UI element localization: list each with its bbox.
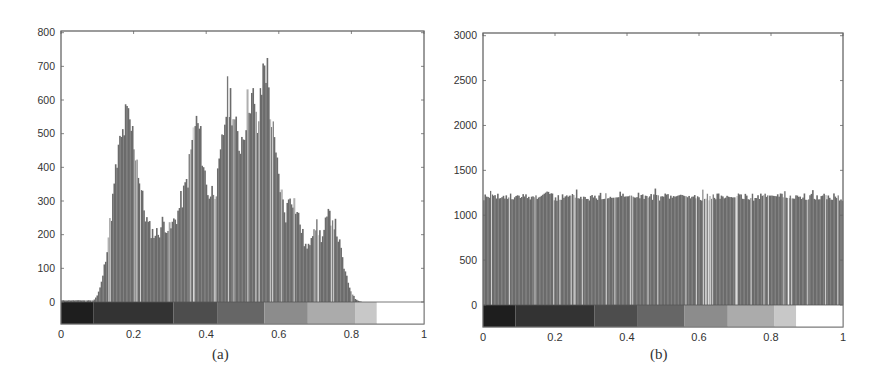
x-tick-label: 0.2	[126, 328, 141, 340]
y-tick-label: 1500	[454, 164, 478, 176]
y-tick-label: 2000	[454, 119, 478, 131]
y-tick-label: 0	[49, 296, 55, 308]
y-tick-label: 200	[37, 228, 55, 240]
y-tick-label: 3000	[454, 29, 478, 41]
grayscale-colorbar	[61, 302, 424, 324]
caption-a: (a)	[212, 346, 229, 363]
caption-b: (b)	[650, 346, 668, 363]
y-tick-label: 800	[37, 26, 55, 38]
y-tick-label: 2500	[454, 74, 478, 86]
x-tick-label: 0.6	[271, 328, 286, 340]
histogram-chart-b: 05001000150020002500300000.20.40.60.81	[440, 0, 877, 379]
histogram-panel-a: 010020030040050060070080000.20.40.60.81 …	[0, 0, 440, 379]
grayscale-colorbar	[483, 305, 843, 327]
x-tick-label: 0.4	[619, 331, 634, 343]
histogram-panel-b: 05001000150020002500300000.20.40.60.81 (…	[440, 0, 877, 379]
x-tick-label: 0.4	[199, 328, 214, 340]
x-tick-label: 0.6	[691, 331, 706, 343]
x-tick-label: 1	[840, 331, 846, 343]
x-tick-label: 0.8	[763, 331, 778, 343]
y-tick-label: 0	[471, 299, 477, 311]
y-tick-label: 600	[37, 94, 55, 106]
y-tick-label: 100	[37, 262, 55, 274]
y-tick-label: 1000	[454, 209, 478, 221]
x-tick-label: 1	[421, 328, 427, 340]
x-tick-label: 0	[480, 331, 486, 343]
y-tick-label: 400	[37, 161, 55, 173]
histogram-chart-a: 010020030040050060070080000.20.40.60.81	[0, 0, 440, 379]
x-tick-label: 0.2	[547, 331, 562, 343]
histogram-bars	[483, 189, 843, 305]
y-tick-label: 500	[37, 127, 55, 139]
x-tick-label: 0.8	[344, 328, 359, 340]
y-tick-label: 700	[37, 60, 55, 72]
y-tick-label: 500	[459, 254, 477, 266]
x-tick-label: 0	[58, 328, 64, 340]
y-tick-label: 300	[37, 195, 55, 207]
